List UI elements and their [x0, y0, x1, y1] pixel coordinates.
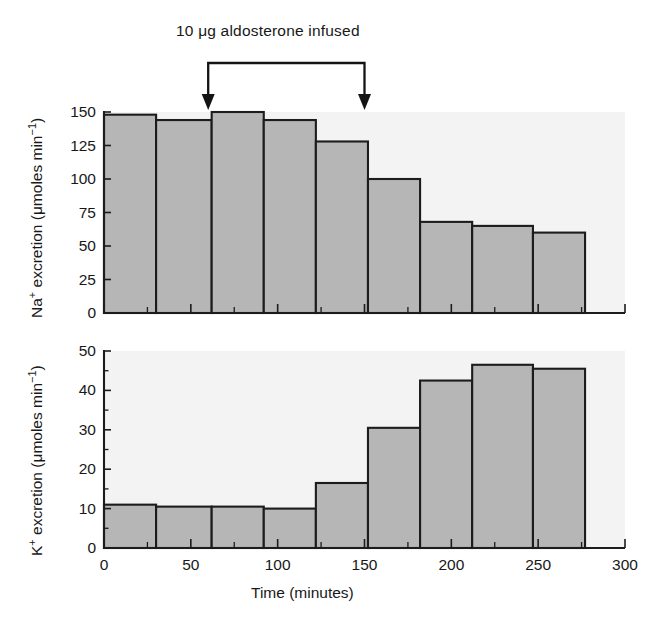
x-tick-label: 300 [612, 556, 638, 574]
y-tick-label: 20 [54, 460, 96, 478]
top-ylabel-ion: Na [28, 298, 45, 318]
y-tick-label: 50 [54, 237, 96, 255]
x-axis-title: Time (minutes) [251, 584, 354, 602]
bar [533, 369, 585, 548]
infusion-end-arrow-icon [358, 94, 371, 110]
bar [368, 428, 420, 548]
bracket-path [208, 63, 364, 94]
infusion-annotation-label: 10 μg aldosterone infused [176, 22, 360, 40]
x-tick-label: 0 [100, 556, 109, 574]
bar [420, 381, 472, 548]
bottom-ylabel-charge: + [26, 539, 38, 545]
bar [104, 505, 156, 548]
bar [533, 233, 585, 313]
bar [316, 141, 368, 313]
bottom-ylabel-ion: K [28, 546, 45, 556]
y-tick-label: 125 [54, 137, 96, 155]
bar [264, 509, 316, 548]
bar [212, 112, 264, 313]
y-tick-label: 40 [54, 381, 96, 399]
x-tick-label: 100 [265, 556, 291, 574]
top-panel-y-axis-title: Na+ excretion (μmoles min−1) [26, 118, 46, 318]
bar [156, 120, 212, 313]
y-tick-label: 100 [54, 170, 96, 188]
plots-svg [0, 0, 655, 624]
y-tick-label: 30 [54, 421, 96, 439]
y-tick-label: 0 [54, 539, 96, 557]
bar [316, 483, 368, 548]
bottom-ylabel-close: ) [28, 365, 45, 370]
infusion-bracket-arrows [202, 63, 371, 110]
y-tick-label: 0 [54, 304, 96, 322]
x-tick-label: 150 [352, 556, 378, 574]
bar [212, 507, 264, 548]
top-ylabel-charge: + [26, 292, 38, 298]
top-ylabel-rest: excretion (μmoles min [28, 136, 45, 292]
bar [156, 507, 212, 548]
x-tick-label: 200 [438, 556, 464, 574]
infusion-start-arrow-icon [202, 94, 215, 110]
y-tick-label: 10 [54, 500, 96, 518]
bottom-panel-y-axis-title: K+ excretion (μmoles min−1) [26, 365, 46, 556]
bar [472, 226, 533, 313]
y-tick-label: 25 [54, 271, 96, 289]
bottom-panel [104, 350, 625, 548]
x-tick-label: 50 [182, 556, 199, 574]
y-tick-label: 50 [54, 342, 96, 360]
bottom-ylabel-rest: excretion (μmoles min [28, 383, 45, 539]
x-tick-label: 250 [525, 556, 551, 574]
bar [264, 120, 316, 313]
bar [368, 179, 420, 313]
y-tick-label: 75 [54, 204, 96, 222]
bar [104, 115, 156, 313]
y-tick-label: 150 [54, 103, 96, 121]
top-panel [104, 111, 625, 313]
figure-container: 10 μg aldosterone infused Na+ excretion … [0, 0, 655, 624]
bottom-ylabel-exponent: −1 [26, 370, 38, 383]
top-ylabel-exponent: −1 [26, 123, 38, 136]
top-ylabel-close: ) [28, 118, 45, 123]
bar [472, 365, 533, 548]
bar [420, 222, 472, 313]
